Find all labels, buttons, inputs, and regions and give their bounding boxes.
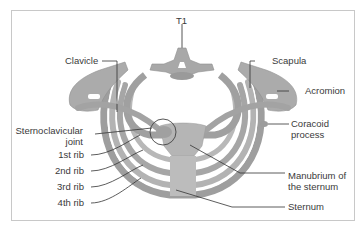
label-1st-rib: 1st rib bbox=[58, 149, 84, 160]
label-acromion: Acromion bbox=[305, 85, 345, 96]
left-scapula-notch bbox=[88, 94, 100, 99]
label-2nd-rib: 2nd rib bbox=[55, 165, 84, 176]
label-t1: T1 bbox=[176, 15, 187, 26]
label-manubrium: Manubrium of the sternum bbox=[288, 170, 346, 192]
label-coracoid-process: Coracoid process bbox=[291, 118, 329, 140]
label-4th-rib: 4th rib bbox=[58, 197, 84, 208]
t1-vertebra bbox=[150, 24, 214, 80]
label-sternoclavicular-joint: Sternoclavicular joint bbox=[15, 125, 83, 147]
label-sternum: Sternum bbox=[288, 201, 324, 212]
thorax-illustration bbox=[0, 0, 363, 228]
label-3rd-rib: 3rd rib bbox=[57, 181, 84, 192]
label-clavicle: Clavicle bbox=[65, 55, 98, 66]
right-scapula-notch bbox=[266, 94, 278, 99]
coracoid-process bbox=[260, 121, 268, 127]
label-scapula: Scapula bbox=[272, 55, 306, 66]
